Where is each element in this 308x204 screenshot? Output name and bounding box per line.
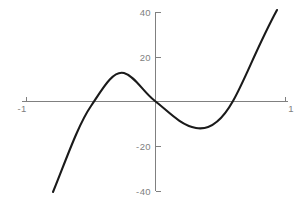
y-tick-label-neg40: -40 (136, 186, 151, 197)
plot-figure: 40 20 -20 -40 -1 1 (0, 0, 308, 204)
x-tick-label-1: 1 (288, 103, 294, 114)
y-tick-label-40: 40 (140, 7, 151, 18)
y-tick-label-neg20: -20 (136, 141, 151, 152)
y-tick-label-20: 20 (140, 52, 151, 63)
x-tick-label-neg1: -1 (17, 103, 26, 114)
plot-canvas: 40 20 -20 -40 -1 1 (0, 0, 308, 204)
